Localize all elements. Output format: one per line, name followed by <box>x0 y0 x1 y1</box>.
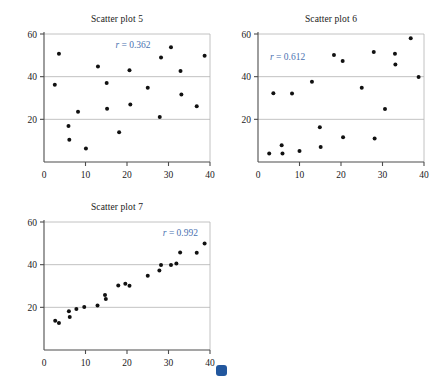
data-point <box>409 36 413 40</box>
y-tick-label-40: 40 <box>242 72 252 82</box>
data-point <box>96 303 100 307</box>
scatter-plot-5-panel: Scatter plot 5 204060010203040r = 0.362 <box>14 14 220 194</box>
data-point <box>53 319 57 323</box>
data-point <box>271 91 275 95</box>
data-point <box>76 110 80 114</box>
data-point <box>319 145 323 149</box>
scatter-plot-6-panel: Scatter plot 6 204060010203040r = 0.612 <box>228 14 434 194</box>
data-point <box>158 115 162 119</box>
x-tick-label-40: 40 <box>205 170 215 180</box>
data-point <box>417 75 421 79</box>
x-tick-label-0: 0 <box>256 170 261 180</box>
y-tick-label-20: 20 <box>28 303 38 313</box>
data-point <box>53 83 57 87</box>
data-point-group <box>53 45 207 150</box>
y-tick-label-40: 40 <box>28 72 38 82</box>
scatter-plot-7-panel: Scatter plot 7 204060010203040r = 0.992 <box>14 202 220 382</box>
data-point <box>341 135 345 139</box>
data-point <box>146 274 150 278</box>
scatter-plot-6-title: Scatter plot 6 <box>228 14 434 24</box>
x-tick-label-30: 30 <box>378 170 388 180</box>
data-point <box>267 151 271 155</box>
data-point <box>127 284 131 288</box>
data-point <box>57 321 61 325</box>
data-point <box>393 52 397 56</box>
data-point <box>105 81 109 85</box>
data-point <box>169 45 173 49</box>
data-point <box>67 138 71 142</box>
y-tick-label-60: 60 <box>28 30 38 40</box>
data-point <box>67 309 71 313</box>
data-point <box>318 125 322 129</box>
data-point <box>84 147 88 151</box>
x-tick-label-0: 0 <box>42 170 47 180</box>
data-point <box>116 284 120 288</box>
data-point <box>203 54 207 58</box>
data-point <box>341 59 345 63</box>
data-point <box>178 251 182 255</box>
data-point <box>195 251 199 255</box>
correlation-annotation: r = 0.992 <box>163 228 198 238</box>
blue-dot-marker[interactable] <box>216 365 227 376</box>
x-tick-label-20: 20 <box>122 358 132 368</box>
scatter-plot-7-svg: 204060010203040r = 0.992 <box>14 202 220 382</box>
data-point <box>332 53 336 57</box>
x-tick-label-30: 30 <box>164 170 174 180</box>
data-point <box>280 151 284 155</box>
x-tick-label-20: 20 <box>122 170 132 180</box>
data-point <box>146 86 150 90</box>
data-point <box>105 107 109 111</box>
scatter-plot-5-svg: 204060010203040r = 0.362 <box>14 14 220 194</box>
data-point <box>128 102 132 106</box>
data-point <box>298 149 302 153</box>
y-tick-label-40: 40 <box>28 260 38 270</box>
data-point <box>360 86 364 90</box>
y-tick-label-60: 60 <box>28 218 38 228</box>
data-point <box>127 68 131 72</box>
data-point <box>82 305 86 309</box>
data-point <box>169 263 173 267</box>
data-point <box>123 282 127 286</box>
correlation-annotation: r = 0.612 <box>270 52 305 62</box>
scatter-plot-6-svg: 204060010203040r = 0.612 <box>228 14 434 194</box>
x-tick-label-10: 10 <box>81 358 91 368</box>
data-point <box>159 263 163 267</box>
data-point <box>66 124 70 128</box>
x-tick-label-30: 30 <box>164 358 174 368</box>
y-tick-label-20: 20 <box>242 115 252 125</box>
data-point <box>310 80 314 84</box>
data-point <box>383 107 387 111</box>
data-point <box>68 315 72 319</box>
data-point <box>57 52 61 56</box>
data-point <box>280 143 284 147</box>
x-tick-label-0: 0 <box>42 358 47 368</box>
data-point <box>179 93 183 97</box>
data-point <box>96 64 100 68</box>
x-tick-label-10: 10 <box>295 170 305 180</box>
data-point <box>179 69 183 73</box>
scatter-plot-5-title: Scatter plot 5 <box>14 14 220 24</box>
data-point <box>74 307 78 311</box>
x-tick-label-40: 40 <box>419 170 429 180</box>
data-point <box>393 63 397 67</box>
y-tick-label-60: 60 <box>242 30 252 40</box>
y-tick-label-20: 20 <box>28 115 38 125</box>
correlation-annotation: r = 0.362 <box>115 40 150 50</box>
data-point-group <box>53 242 206 326</box>
data-point <box>159 55 163 59</box>
data-point <box>104 297 108 301</box>
data-point <box>157 268 161 272</box>
data-point <box>372 50 376 54</box>
x-tick-label-40: 40 <box>205 358 215 368</box>
data-point <box>290 92 294 96</box>
data-point <box>373 137 377 141</box>
data-point <box>117 130 121 134</box>
data-point <box>174 262 178 266</box>
scatter-plot-7-title: Scatter plot 7 <box>14 202 220 212</box>
data-point <box>103 293 107 297</box>
data-point <box>195 104 199 108</box>
x-tick-label-20: 20 <box>336 170 346 180</box>
x-tick-label-10: 10 <box>81 170 91 180</box>
data-point <box>203 242 207 246</box>
